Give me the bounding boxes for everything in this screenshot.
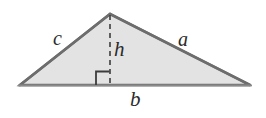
- triangle-shape: [20, 14, 250, 85]
- height-label-h: h: [114, 39, 125, 60]
- triangle-diagram: c a h b: [0, 0, 266, 118]
- base-label-b: b: [130, 89, 141, 110]
- side-label-c: c: [53, 28, 62, 48]
- side-label-a: a: [178, 29, 188, 49]
